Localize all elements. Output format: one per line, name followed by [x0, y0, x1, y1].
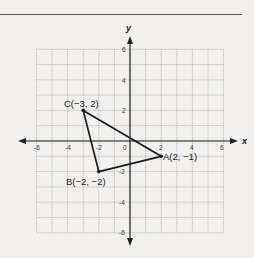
y-tick-label: -6: [119, 229, 125, 236]
coordinate-plane: x y -6 -4 -2 0 2 4 6 6 4 2 -2 -4 -6 A(2,…: [0, 0, 254, 258]
y-tick-label: 2: [122, 107, 126, 114]
point-c-label: C(−3, 2): [64, 98, 99, 109]
y-axis-up-arrow-icon: [127, 36, 133, 44]
y-axis-down-arrow-icon: [127, 238, 133, 246]
x-tick-label: 2: [159, 144, 163, 151]
x-axis-label: x: [241, 136, 248, 146]
point-b-label: B(−2, −2): [66, 176, 106, 187]
x-axis-right-arrow-icon: [230, 138, 238, 144]
x-tick-label: -2: [96, 144, 102, 151]
y-tick-label: 4: [122, 77, 126, 84]
x-tick-label: -6: [34, 144, 40, 151]
x-tick-label: -4: [65, 144, 71, 151]
y-tick-label: -4: [119, 199, 125, 206]
point-b-dot: [97, 170, 101, 174]
y-axis-label: y: [125, 23, 132, 33]
y-tick-label: 6: [122, 46, 126, 53]
point-a-label: A(2, −1): [163, 151, 197, 162]
y-tick-label: -2: [119, 168, 125, 175]
axes: x y: [18, 23, 248, 246]
x-axis-left-arrow-icon: [18, 138, 26, 144]
x-tick-label: 4: [190, 144, 194, 151]
x-tick-label: 6: [220, 144, 224, 151]
x-tick-label: 0: [123, 144, 127, 151]
point-c-dot: [81, 109, 85, 113]
